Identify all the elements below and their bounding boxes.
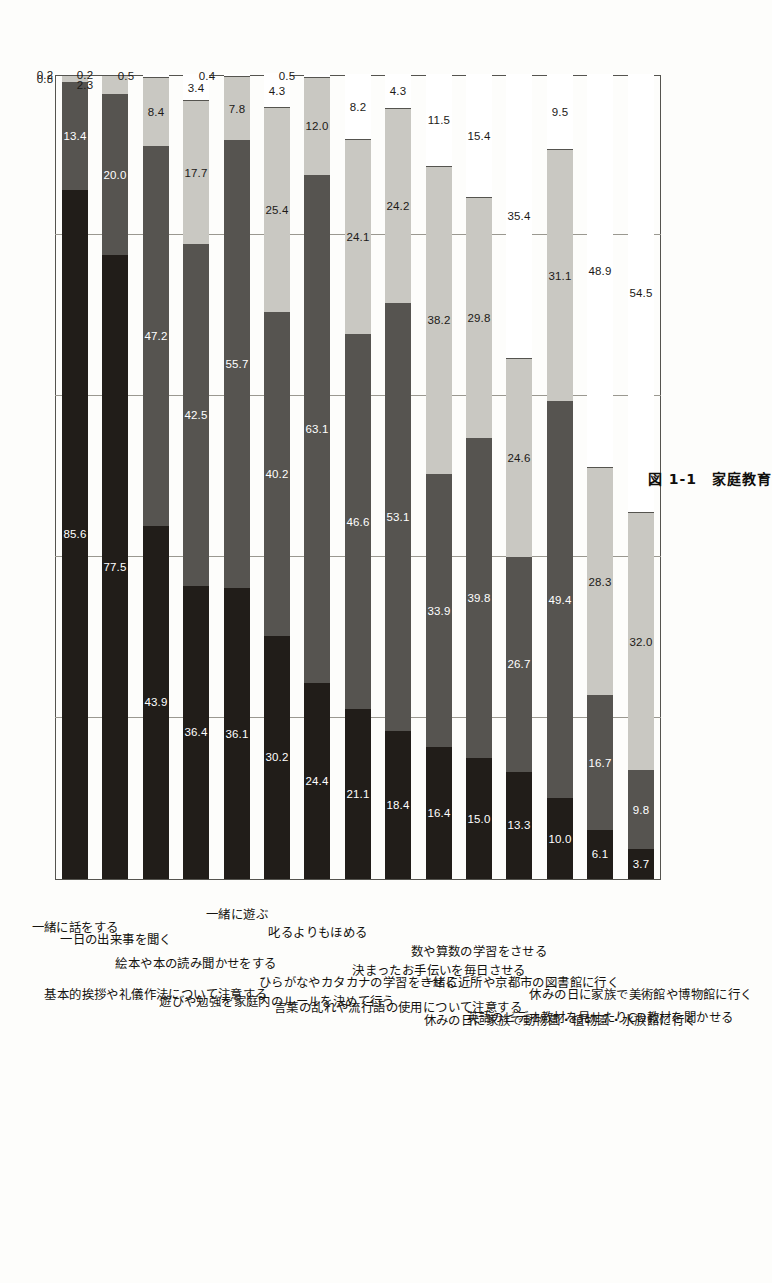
- bar-value-label: 6.1: [592, 848, 609, 860]
- bar-value-label: 46.6: [346, 516, 369, 528]
- bar-segment-4[interactable]: [143, 74, 169, 78]
- chart-row: 85.613.40.80.2: [55, 75, 95, 879]
- bar-value-label: 13.3: [508, 819, 531, 831]
- bar-value-label: 24.1: [346, 231, 369, 243]
- chart-row: 6.116.728.348.9: [580, 75, 620, 879]
- bar-value-label: 17.7: [185, 167, 208, 179]
- bar-value-label: 7.8: [228, 103, 245, 115]
- bar-value-label: 36.4: [185, 727, 208, 739]
- stacked-bar[interactable]: 30.240.225.44.3: [264, 75, 290, 879]
- bar-value-label: 24.2: [387, 200, 410, 212]
- bar-value-label: 18.4: [387, 799, 410, 811]
- figure-caption: 図 1-1 家庭教育: [700, 75, 720, 880]
- bar-value-label: 47.2: [144, 330, 167, 342]
- stacked-bar[interactable]: 6.116.728.348.9: [587, 75, 613, 879]
- bar-value-label: 33.9: [427, 605, 450, 617]
- chart-row: 15.039.829.815.4: [459, 75, 499, 879]
- category-label: 基本的挨拶や礼儀作法について注意する: [136, 883, 176, 1283]
- category-label: 休みの日に家族で美術館や博物館に行く: [621, 883, 661, 1283]
- bar-segment-4[interactable]: [224, 74, 250, 77]
- category-label: 数や算数の学習をさせる: [459, 883, 499, 1283]
- bar-value-label: 0.2: [37, 69, 54, 81]
- bar-value-label: 38.2: [427, 314, 450, 326]
- stacked-bar[interactable]: 18.453.124.24.3: [385, 75, 411, 879]
- chart-row: 21.146.624.18.2: [338, 75, 378, 879]
- bar-value-label: 49.4: [548, 594, 571, 606]
- bar-value-label: 32.0: [629, 636, 652, 648]
- chart-row: 13.326.724.635.4: [499, 75, 539, 879]
- category-label: 英語のビデオ教材を見せたりCD教材を聞かせる: [580, 883, 620, 1283]
- category-label: 休みの日に家族で動物園・植物園・水族館に行く: [540, 883, 580, 1283]
- bar-value-label: 8.2: [350, 101, 367, 113]
- bar-value-label: 20.0: [104, 169, 127, 181]
- chart-row: 24.463.112.00.5: [297, 75, 337, 879]
- bar-value-label: 10.0: [548, 833, 571, 845]
- bar-value-label: 42.5: [185, 409, 208, 421]
- stacked-bar[interactable]: 13.326.724.635.4: [506, 75, 532, 879]
- bar-value-label: 39.8: [467, 592, 490, 604]
- bar-value-label: 15.0: [467, 813, 490, 825]
- chart-plot-area: 85.613.40.80.277.520.02.30.243.947.28.40…: [55, 75, 661, 880]
- chart-row: 43.947.28.40.5: [136, 75, 176, 879]
- category-label: ひらがなやカタカナの学習をさせる: [338, 883, 378, 1283]
- bar-value-label: 63.1: [306, 423, 329, 435]
- figure-caption-text: 図 1-1 家庭教育: [648, 468, 772, 488]
- stacked-bar[interactable]: 21.146.624.18.2: [345, 75, 371, 879]
- bar-value-label: 31.1: [548, 270, 571, 282]
- stacked-bar[interactable]: 77.520.02.30.2: [102, 75, 128, 879]
- bar-value-label: 24.6: [508, 452, 531, 464]
- bar-value-label: 54.5: [629, 287, 652, 299]
- bar-value-label: 11.5: [427, 114, 449, 126]
- stacked-bar[interactable]: 85.613.40.80.2: [62, 75, 88, 879]
- category-label: 一緒に遊ぶ: [217, 883, 257, 1283]
- category-label: 一日の出来事を聞く: [95, 883, 135, 1283]
- bar-value-label: 53.1: [387, 511, 410, 523]
- chart-row: 36.155.77.80.4: [217, 75, 257, 879]
- bar-value-label: 21.1: [346, 788, 369, 800]
- bar-value-label: 77.5: [104, 561, 127, 573]
- chart-row: 30.240.225.44.3: [257, 75, 297, 879]
- bar-value-label: 40.2: [265, 468, 288, 480]
- stacked-bar[interactable]: 24.463.112.00.5: [304, 75, 330, 879]
- bar-segment-4[interactable]: [304, 74, 330, 78]
- bar-value-label: 85.6: [63, 528, 86, 540]
- bar-value-label: 15.4: [467, 130, 490, 142]
- chart-row: 10.049.431.19.5: [540, 75, 580, 879]
- category-label: 遊びや勉強を家庭内のルールを決めて行う: [257, 883, 297, 1283]
- bar-value-label: 3.7: [632, 858, 649, 870]
- stacked-bar[interactable]: 10.049.431.19.5: [547, 75, 573, 879]
- stacked-bar[interactable]: 16.433.938.211.5: [426, 75, 452, 879]
- chart-row: 16.433.938.211.5: [419, 75, 459, 879]
- stacked-bar[interactable]: 36.155.77.80.4: [224, 75, 250, 879]
- bar-value-label: 43.9: [144, 696, 167, 708]
- bar-value-label: 9.8: [632, 804, 649, 816]
- stacked-bar[interactable]: 36.442.517.73.4: [183, 75, 209, 879]
- chart-row: 77.520.02.30.2: [95, 75, 135, 879]
- bar-value-label: 0.5: [279, 70, 296, 82]
- bar-value-label: 36.1: [225, 728, 248, 740]
- stacked-bar[interactable]: 43.947.28.40.5: [143, 75, 169, 879]
- bar-value-label: 48.9: [589, 265, 612, 277]
- chart-row: 36.442.517.73.4: [176, 75, 216, 879]
- bar-value-label: 16.7: [589, 757, 612, 769]
- bar-value-label: 24.4: [306, 775, 329, 787]
- bar-value-label: 13.4: [63, 130, 86, 142]
- bar-value-label: 4.3: [390, 85, 407, 97]
- bar-value-label: 25.4: [265, 204, 288, 216]
- category-label-text: 英語のビデオ教材を見せたりCD教材を聞かせる: [467, 1008, 734, 1026]
- bar-value-label: 0.4: [198, 70, 215, 82]
- stacked-bar[interactable]: 15.039.829.815.4: [466, 75, 492, 879]
- bar-value-label: 16.4: [427, 807, 450, 819]
- chart-row: 18.453.124.24.3: [378, 75, 418, 879]
- bar-value-label: 26.7: [508, 658, 531, 670]
- category-label: 絵本や本の読み聞かせをする: [176, 883, 216, 1283]
- bar-value-label: 0.5: [118, 70, 135, 82]
- bar-value-label: 30.2: [265, 751, 288, 763]
- bar-value-label: 0.2: [77, 69, 94, 81]
- bar-value-label: 9.5: [552, 106, 569, 118]
- bar-value-label: 55.7: [225, 358, 248, 370]
- bar-value-label: 3.4: [188, 82, 205, 94]
- bar-value-label: 8.4: [148, 106, 165, 118]
